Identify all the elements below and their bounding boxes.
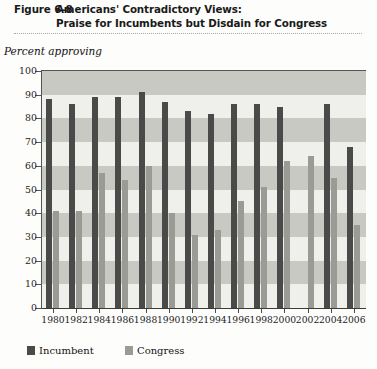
bar-congress-2006 bbox=[354, 225, 360, 308]
x-axis-tick bbox=[76, 309, 77, 313]
x-axis-tick bbox=[99, 309, 100, 313]
x-axis-tick bbox=[308, 309, 309, 313]
y-axis-tick-label: 10 bbox=[11, 279, 37, 288]
bar-group bbox=[162, 71, 185, 308]
bar-incumbent-1988 bbox=[139, 92, 145, 308]
legend-swatch-congress bbox=[125, 346, 133, 355]
legend-swatch-incumbent bbox=[27, 346, 35, 355]
x-axis-tick bbox=[238, 309, 239, 313]
bar-group bbox=[301, 71, 324, 308]
y-axis-caption: Percent approving bbox=[4, 45, 102, 57]
y-axis-tick-label: 20 bbox=[11, 256, 37, 265]
bar-incumbent-1984 bbox=[92, 97, 98, 308]
bar-incumbent-1990 bbox=[162, 102, 168, 308]
figure-title-block: Figure 6-8 Americans' Contradictory View… bbox=[0, 0, 377, 38]
bar-group bbox=[347, 71, 366, 308]
y-axis-tick-label: 100 bbox=[11, 66, 37, 75]
bar-group bbox=[69, 71, 92, 308]
title-divider bbox=[14, 33, 362, 34]
x-axis-tick bbox=[122, 309, 123, 313]
bar-congress-1990 bbox=[169, 213, 175, 308]
x-axis-tick bbox=[169, 309, 170, 313]
bar-group bbox=[324, 71, 347, 308]
y-axis-tick-label: 60 bbox=[11, 161, 37, 170]
bar-group bbox=[92, 71, 115, 308]
bar-congress-1992 bbox=[192, 235, 198, 308]
bar-group bbox=[254, 71, 277, 308]
x-axis-tick bbox=[215, 309, 216, 313]
bar-incumbent-1986 bbox=[115, 97, 121, 308]
bar-group bbox=[277, 71, 300, 308]
bar-incumbent-2000 bbox=[277, 107, 283, 308]
bar-incumbent-1980 bbox=[46, 99, 52, 308]
bar-congress-1996 bbox=[238, 201, 244, 308]
x-axis-tick bbox=[53, 309, 54, 313]
x-axis-tick bbox=[354, 309, 355, 313]
bar-incumbent-1982 bbox=[69, 104, 75, 308]
bar-group bbox=[115, 71, 138, 308]
bar-incumbent-1998 bbox=[254, 104, 260, 308]
figure-title-line-1: Americans' Contradictory Views: bbox=[56, 3, 242, 15]
bar-congress-1998 bbox=[261, 187, 267, 308]
bar-incumbent-2006 bbox=[347, 147, 353, 308]
bar-group bbox=[139, 71, 162, 308]
bar-incumbent-2004 bbox=[324, 104, 330, 308]
bar-congress-1994 bbox=[215, 230, 221, 308]
x-axis-tick bbox=[146, 309, 147, 313]
bar-congress-2002 bbox=[308, 156, 314, 308]
bar-congress-1984 bbox=[99, 173, 105, 308]
bar-congress-1988 bbox=[146, 166, 152, 308]
bar-congress-2004 bbox=[331, 178, 337, 308]
bar-group bbox=[231, 71, 254, 308]
bar-congress-1986 bbox=[122, 180, 128, 308]
bar-group bbox=[208, 71, 231, 308]
figure-page: Figure 6-8 Americans' Contradictory View… bbox=[0, 0, 377, 369]
bar-incumbent-1992 bbox=[185, 111, 191, 308]
y-axis-tick-label: 50 bbox=[11, 185, 37, 194]
x-axis-line bbox=[42, 308, 366, 309]
x-axis-tick bbox=[331, 309, 332, 313]
x-axis-tick bbox=[192, 309, 193, 313]
legend-label-congress: Congress bbox=[137, 344, 184, 357]
x-axis-tick bbox=[284, 309, 285, 313]
y-axis-tick-label: 0 bbox=[11, 303, 37, 312]
bar-group bbox=[46, 71, 69, 308]
bar-congress-1982 bbox=[76, 211, 82, 308]
legend-label-incumbent: Incumbent bbox=[39, 344, 94, 357]
y-axis-tick-label: 90 bbox=[11, 90, 37, 99]
bar-congress-1980 bbox=[53, 211, 59, 308]
x-axis-tick-label: 2006 bbox=[337, 315, 371, 324]
y-axis-tick-label: 80 bbox=[11, 113, 37, 122]
bar-incumbent-1996 bbox=[231, 104, 237, 308]
bar-group bbox=[185, 71, 208, 308]
plot-area bbox=[42, 71, 366, 308]
y-axis-tick-label: 70 bbox=[11, 137, 37, 146]
bar-congress-2000 bbox=[284, 161, 290, 308]
y-axis-tick-label: 30 bbox=[11, 232, 37, 241]
figure-title-line-2: Praise for Incumbents but Disdain for Co… bbox=[56, 17, 327, 29]
bar-incumbent-1994 bbox=[208, 114, 214, 308]
y-axis-tick-label: 40 bbox=[11, 208, 37, 217]
x-axis-tick bbox=[261, 309, 262, 313]
